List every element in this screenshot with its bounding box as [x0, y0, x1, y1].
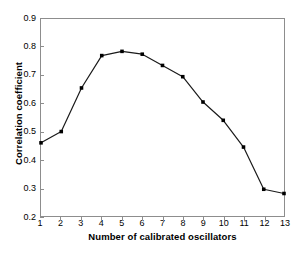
y-tick-mark: [40, 189, 44, 190]
x-tick-label: 1: [30, 219, 50, 228]
y-tick-mark: [40, 217, 44, 218]
x-tick-mark: [122, 217, 123, 221]
x-tick-mark: [203, 217, 204, 221]
x-axis-tick-labels: 12345678910111213: [0, 0, 305, 256]
x-tick-mark: [265, 217, 266, 221]
y-tick-mark: [40, 132, 44, 133]
x-tick-mark: [81, 217, 82, 221]
y-tick-mark: [40, 160, 44, 161]
x-tick-label: 13: [275, 219, 295, 228]
y-tick-mark: [40, 18, 44, 19]
y-tick-mark: [40, 75, 44, 76]
x-tick-mark: [244, 217, 245, 221]
chart-figure: 0.20.30.40.50.60.70.80.9 123456789101112…: [0, 0, 305, 256]
x-tick-mark: [163, 217, 164, 221]
x-tick-mark: [60, 217, 61, 221]
x-tick-mark: [101, 217, 102, 221]
x-tick-mark: [224, 217, 225, 221]
x-tick-mark: [142, 217, 143, 221]
y-tick-mark: [40, 46, 44, 47]
y-tick-mark: [40, 103, 44, 104]
x-tick-mark: [183, 217, 184, 221]
x-axis-title: Number of calibrated oscillators: [40, 231, 285, 242]
y-axis-title: Correlation coefficient: [13, 34, 24, 194]
